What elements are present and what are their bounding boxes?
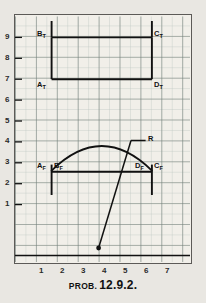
x-tick-3: 3 bbox=[81, 267, 85, 275]
figure-linework bbox=[15, 15, 190, 262]
point-label-at: AT bbox=[37, 81, 46, 89]
point-label-ct: CT bbox=[154, 30, 163, 38]
figure-caption: PROB.12.9.2. bbox=[0, 275, 206, 293]
y-tick-2: 2 bbox=[5, 179, 9, 187]
y-tick-9: 9 bbox=[5, 33, 9, 41]
x-tick-5: 5 bbox=[123, 267, 127, 275]
caption-number: 12.9.2. bbox=[99, 278, 137, 292]
point-label-bt: BT bbox=[37, 30, 46, 38]
y-tick-6: 6 bbox=[5, 96, 9, 104]
front-view bbox=[52, 146, 152, 195]
y-tick-3: 3 bbox=[5, 158, 9, 166]
y-tick-1: 1 bbox=[5, 200, 9, 208]
plot-frame: BT AT CT DT AF BF DF CF R bbox=[14, 14, 192, 264]
x-tick-7: 7 bbox=[165, 267, 169, 275]
x-tick-4: 4 bbox=[102, 267, 106, 275]
top-view-rectangle bbox=[52, 21, 152, 79]
y-tick-7: 7 bbox=[5, 75, 9, 83]
ray-R bbox=[96, 141, 145, 251]
point-label-df: DF bbox=[135, 162, 144, 170]
x-tick-2: 2 bbox=[60, 267, 64, 275]
y-tick-5: 5 bbox=[5, 117, 9, 125]
x-tick-6: 6 bbox=[144, 267, 148, 275]
caption-prefix: PROB. bbox=[69, 281, 97, 291]
point-label-cf: CF bbox=[154, 162, 163, 170]
x-tick-1: 1 bbox=[39, 267, 43, 275]
point-label-r: R bbox=[148, 135, 153, 143]
point-label-dt: DT bbox=[154, 81, 163, 89]
figure-root: BT AT CT DT AF BF DF CF R 9 8 7 6 5 4 3 … bbox=[0, 0, 206, 303]
point-label-bf: BF bbox=[54, 162, 63, 170]
y-tick-8: 8 bbox=[5, 54, 9, 62]
point-label-af: AF bbox=[37, 162, 46, 170]
y-tick-4: 4 bbox=[5, 137, 9, 145]
